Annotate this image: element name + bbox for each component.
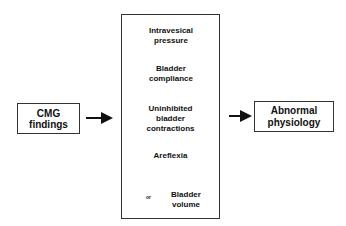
abnormal-physiology-box: Abnormal physiology (254, 101, 334, 132)
abnormal-physiology-line1: Abnormal (255, 105, 333, 117)
or-label: or (146, 194, 151, 200)
abnormal-physiology-line2: physiology (255, 117, 333, 129)
finding-areflexia: Areflexia (122, 151, 219, 161)
finding-intravesical-pressure: Intravesical pressure (136, 26, 206, 46)
finding-bladder-volume: Bladder volume (156, 190, 216, 210)
finding-uninhibited-contractions: Uninhibited bladder contractions (122, 104, 219, 134)
cmg-findings-line1: CMG (18, 108, 79, 119)
cmg-findings-line2: findings (18, 119, 79, 130)
finding-bladder-compliance: Bladder compliance (136, 64, 206, 84)
findings-list-box: Intravesical pressure Bladder compliance… (121, 14, 220, 219)
cmg-findings-box: CMG findings (17, 103, 80, 134)
